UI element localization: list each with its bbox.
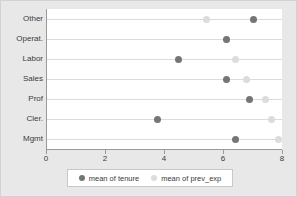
data-point bbox=[223, 76, 230, 83]
y-axis-tick-label: Sales bbox=[0, 74, 43, 84]
data-point bbox=[268, 116, 275, 123]
data-point bbox=[232, 136, 239, 143]
data-point bbox=[203, 16, 210, 23]
data-point bbox=[232, 56, 239, 63]
x-axis-tick-label: 0 bbox=[36, 154, 56, 164]
gridline bbox=[47, 39, 282, 40]
legend-label-tenure: mean of tenure bbox=[89, 174, 139, 183]
gridline bbox=[47, 19, 282, 20]
dot-plot-figure: OtherOperat.LaborSalesProfCler.Mgmt 0246… bbox=[0, 0, 297, 197]
y-axis-tick-label: Labor bbox=[0, 54, 43, 64]
x-axis-tick-label: 6 bbox=[213, 154, 233, 164]
legend-marker-circle-icon bbox=[151, 175, 157, 181]
data-point bbox=[262, 96, 269, 103]
y-axis-tick-label: Mgmt bbox=[0, 134, 43, 144]
x-axis-tick-label: 4 bbox=[154, 154, 174, 164]
data-point bbox=[250, 16, 257, 23]
y-axis-tick-label: Other bbox=[0, 14, 43, 24]
y-axis-tick-label: Prof bbox=[0, 94, 43, 104]
x-axis-tick-label: 8 bbox=[272, 154, 292, 164]
data-point bbox=[243, 76, 250, 83]
plot-inner bbox=[47, 9, 282, 149]
legend-entry-prev-exp: mean of prev_exp bbox=[151, 174, 221, 183]
y-axis-tick-label: Operat. bbox=[0, 34, 43, 44]
gridline bbox=[47, 139, 282, 140]
data-point bbox=[154, 116, 161, 123]
data-point bbox=[223, 36, 230, 43]
legend-label-prev-exp: mean of prev_exp bbox=[161, 174, 221, 183]
y-axis-tick-label: Cler. bbox=[0, 114, 43, 124]
data-point bbox=[246, 96, 253, 103]
chart-legend: mean of tenure mean of prev_exp bbox=[67, 169, 233, 187]
gridline bbox=[47, 59, 282, 60]
data-point bbox=[175, 56, 182, 63]
legend-entry-tenure: mean of tenure bbox=[79, 174, 139, 183]
plot-area bbox=[46, 9, 282, 149]
gridline bbox=[47, 119, 282, 120]
x-axis-tick-label: 2 bbox=[95, 154, 115, 164]
legend-marker-circle-icon bbox=[79, 175, 85, 181]
data-point bbox=[275, 136, 282, 143]
